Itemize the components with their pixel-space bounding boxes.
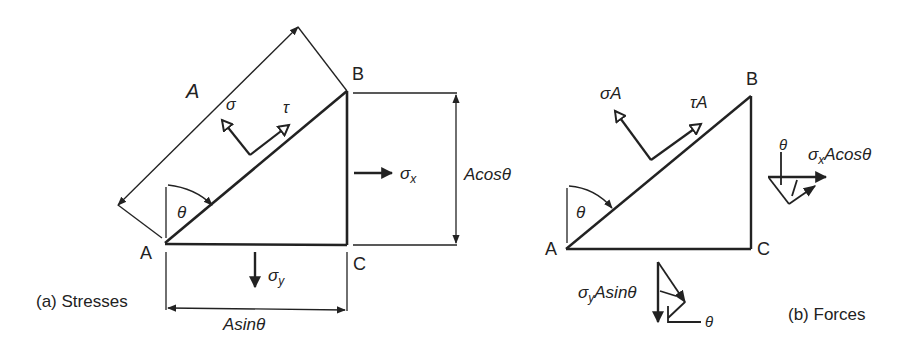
hyp-length-label: A <box>185 80 199 102</box>
normal-stress-label: σ <box>226 96 237 113</box>
shear-force-label: τA <box>690 93 708 112</box>
vertex-a-label-b: A <box>545 239 557 259</box>
vertex-c-label: C <box>353 254 366 274</box>
horizontal-dim-label: Asinθ <box>222 315 266 334</box>
stress-force-diagram: A σ τ θ A B C σx σy Acosθ <box>0 0 916 349</box>
force-arrows <box>615 111 701 160</box>
theta-arc-a <box>166 185 212 238</box>
panel-b-forces: σA τA θ A B C θ σxAcosθ θ σyAsi <box>545 69 872 330</box>
fy-theta-label: θ <box>705 313 713 330</box>
sigma-y-label: σy <box>268 266 285 288</box>
shear-stress-label: τ <box>283 99 290 116</box>
vertex-b-label: B <box>352 64 364 84</box>
caption-b: (b) Forces <box>788 305 865 324</box>
vertex-a-label: A <box>140 243 152 263</box>
stress-arrows <box>222 120 289 155</box>
fy-label: σyAsinθ <box>578 283 637 305</box>
vertex-b-label-b: B <box>746 69 758 89</box>
normal-force-label: σA <box>600 84 622 103</box>
caption-a: (a) Stresses <box>36 292 128 311</box>
fx-label: σxAcosθ <box>808 145 872 167</box>
triangle-a <box>165 91 347 245</box>
theta-arc-b <box>567 186 612 243</box>
horizontal-dimension <box>166 252 347 311</box>
triangle-b <box>566 96 751 249</box>
theta-label-b: θ <box>576 203 586 222</box>
y-force-triangle <box>658 262 701 322</box>
sigma-x-label: σx <box>400 164 417 186</box>
fx-theta-label: θ <box>779 136 787 153</box>
vertical-dim-label: Acosθ <box>463 165 512 184</box>
vertex-c-label-b: C <box>757 239 770 259</box>
panel-a-stresses: A σ τ θ A B C σx σy Acosθ <box>36 27 512 334</box>
theta-label-a: θ <box>177 203 187 222</box>
